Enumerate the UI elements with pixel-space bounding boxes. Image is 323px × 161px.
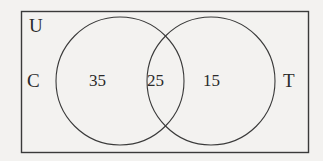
universal-set-rectangle (22, 12, 309, 153)
venn-diagram-canvas: U C T 35 25 15 (0, 0, 323, 161)
universal-set-label: U (29, 16, 43, 35)
region-count-c-only: 35 (89, 72, 106, 89)
region-count-t-only: 15 (203, 72, 220, 89)
region-count-intersection: 25 (147, 72, 164, 89)
set-t-label: T (283, 71, 295, 90)
set-c-label: C (27, 71, 40, 90)
